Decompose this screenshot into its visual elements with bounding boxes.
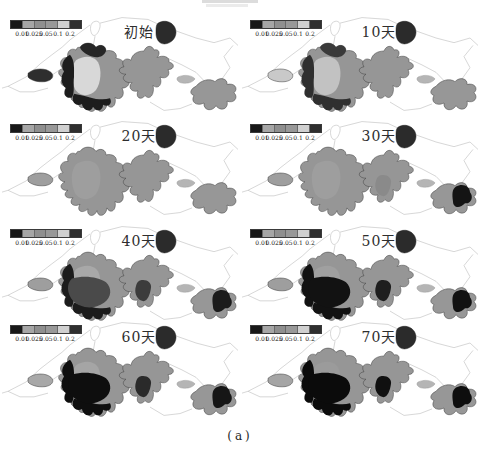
color-scale-legend: 0.010.0250.050.10.2 xyxy=(10,229,82,247)
legend-tick-label: 0.05 xyxy=(39,335,52,342)
legend-color-swatch xyxy=(251,326,263,333)
legend-tick-label: 0.2 xyxy=(305,30,315,37)
legend-tick-label: 0.05 xyxy=(39,134,52,141)
legend-color-swatch xyxy=(298,326,310,333)
panel-title: 60天 xyxy=(96,326,182,346)
legend-tick-label: 0.05 xyxy=(279,335,292,342)
panel-day-20: 0.010.0250.050.10.2 20天 xyxy=(0,116,240,220)
legend-tick-label: 0.1 xyxy=(293,335,303,342)
legend-color-swatch xyxy=(298,21,310,28)
legend-color-swatch xyxy=(286,230,298,237)
legend-color-swatch xyxy=(263,230,275,237)
figure-caption: (a) xyxy=(0,429,480,443)
legend-color-swatch xyxy=(58,125,70,132)
legend-color-swatch xyxy=(46,21,58,28)
legend-color-swatch xyxy=(23,21,35,28)
legend-color-swatch xyxy=(35,230,47,237)
legend-tick-label: 0.2 xyxy=(65,134,75,141)
legend-tick-label: 0.1 xyxy=(293,30,303,37)
legend-color-swatch xyxy=(46,125,58,132)
legend-tick-label: 0.1 xyxy=(53,30,63,37)
figure-panel-grid: 0.010.0250.050.10.2 初始 0.010.0250.050.10… xyxy=(0,0,480,454)
legend-color-swatch xyxy=(251,21,263,28)
legend-color-swatch xyxy=(275,125,287,132)
legend-color-swatch xyxy=(11,125,23,132)
panel-title: 40天 xyxy=(96,230,182,250)
legend-tick-label: 0.1 xyxy=(53,239,63,246)
legend-color-swatch xyxy=(310,230,321,237)
legend-tick-label: 0.2 xyxy=(305,335,315,342)
legend-color-swatch xyxy=(23,326,35,333)
legend-color-swatch xyxy=(23,230,35,237)
color-scale-legend: 0.010.0250.050.10.2 xyxy=(250,20,322,38)
legend-tick-label: 0.05 xyxy=(279,134,292,141)
legend-tick-label: 0.1 xyxy=(293,239,303,246)
legend-color-swatch xyxy=(11,326,23,333)
legend-color-swatch xyxy=(70,125,81,132)
legend-color-swatch xyxy=(70,230,81,237)
panel-title: 30天 xyxy=(336,125,422,145)
color-scale-legend: 0.010.0250.050.10.2 xyxy=(250,229,322,247)
legend-color-swatch xyxy=(46,326,58,333)
legend-color-swatch xyxy=(58,21,70,28)
legend-tick-label: 0.1 xyxy=(53,134,63,141)
legend-color-swatch xyxy=(35,125,47,132)
legend-color-swatch xyxy=(35,326,47,333)
legend-color-swatch xyxy=(46,230,58,237)
legend-tick-label: 0.1 xyxy=(293,134,303,141)
color-scale-legend: 0.010.0250.050.10.2 xyxy=(10,20,82,38)
legend-tick-label: 0.2 xyxy=(65,335,75,342)
legend-color-swatch xyxy=(275,230,287,237)
legend-tick-label: 0.1 xyxy=(53,335,63,342)
legend-color-swatch xyxy=(310,21,321,28)
legend-color-swatch xyxy=(70,21,81,28)
legend-color-swatch xyxy=(286,21,298,28)
legend-tick-label: 0.2 xyxy=(305,239,315,246)
legend-color-swatch xyxy=(298,230,310,237)
legend-tick-label: 0.2 xyxy=(65,239,75,246)
legend-color-swatch xyxy=(310,326,321,333)
legend-tick-label: 0.05 xyxy=(39,239,52,246)
panel-title: 50天 xyxy=(336,230,422,250)
legend-color-swatch xyxy=(35,21,47,28)
panel-title: 70天 xyxy=(336,326,422,346)
legend-color-swatch xyxy=(263,326,275,333)
page-edge-text-remnant xyxy=(202,0,258,3)
legend-color-swatch xyxy=(286,326,298,333)
panel-title: 20天 xyxy=(96,125,182,145)
legend-color-swatch xyxy=(286,125,298,132)
legend-color-swatch xyxy=(251,230,263,237)
legend-tick-label: 0.05 xyxy=(279,30,292,37)
legend-tick-label: 0.05 xyxy=(39,30,52,37)
legend-color-swatch xyxy=(263,21,275,28)
legend-tick-label: 0.05 xyxy=(279,239,292,246)
legend-color-swatch xyxy=(70,326,81,333)
panel-day-10: 0.010.0250.050.10.2 10天 xyxy=(240,12,480,116)
color-scale-legend: 0.010.0250.050.10.2 xyxy=(10,124,82,142)
panel-initial: 0.010.0250.050.10.2 初始 xyxy=(0,12,240,116)
legend-color-swatch xyxy=(251,125,263,132)
panel-day-40: 0.010.0250.050.10.2 40天 xyxy=(0,221,240,325)
panel-day-30: 0.010.0250.050.10.2 30天 xyxy=(240,116,480,220)
legend-color-swatch xyxy=(58,326,70,333)
legend-color-swatch xyxy=(23,125,35,132)
legend-color-swatch xyxy=(11,230,23,237)
legend-color-swatch xyxy=(58,230,70,237)
legend-color-swatch xyxy=(11,21,23,28)
legend-tick-label: 0.2 xyxy=(65,30,75,37)
legend-color-swatch xyxy=(275,21,287,28)
color-scale-legend: 0.010.0250.050.10.2 xyxy=(10,325,82,343)
color-scale-legend: 0.010.0250.050.10.2 xyxy=(250,124,322,142)
panel-day-50: 0.010.0250.050.10.2 50天 xyxy=(240,221,480,325)
color-scale-legend: 0.010.0250.050.10.2 xyxy=(250,325,322,343)
legend-tick-label: 0.2 xyxy=(305,134,315,141)
legend-color-swatch xyxy=(263,125,275,132)
panel-day-60: 0.010.0250.050.10.2 60天 xyxy=(0,317,240,421)
page-edge-text-remnant xyxy=(206,4,248,7)
panel-title: 10天 xyxy=(336,21,422,41)
legend-color-swatch xyxy=(310,125,321,132)
legend-color-swatch xyxy=(298,125,310,132)
panel-title: 初始 xyxy=(96,21,182,41)
panel-day-70: 0.010.0250.050.10.2 70天 xyxy=(240,317,480,421)
legend-color-swatch xyxy=(275,326,287,333)
